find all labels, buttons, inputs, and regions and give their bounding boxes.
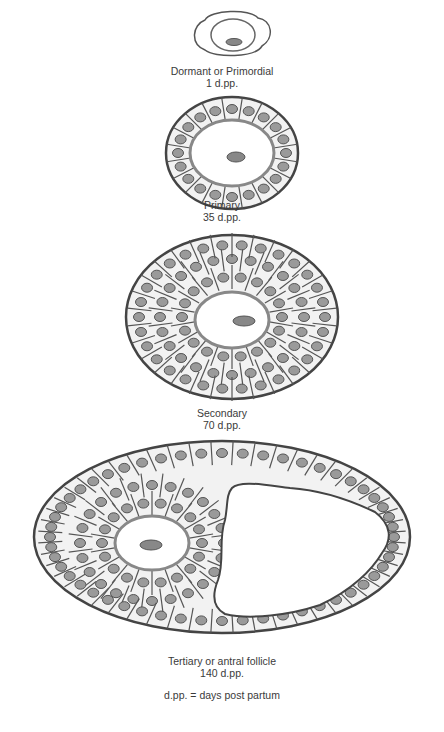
stage-name: Primary	[0, 199, 444, 211]
stage-age: 35 d.pp.	[0, 211, 444, 223]
legend-note: d.pp. = days post partum	[0, 689, 444, 701]
stage-age: 70 d.pp.	[0, 419, 444, 431]
stage-name: Tertiary or antral follicle	[0, 655, 444, 667]
stage-age: 140 d.pp.	[0, 667, 444, 679]
stage-label-secondary: Secondary 70 d.pp.	[0, 407, 444, 431]
stage-name: Dormant or Primordial	[0, 65, 444, 77]
primary-follicle	[166, 97, 298, 209]
stage-name: Secondary	[0, 407, 444, 419]
stage-age: 1 d.pp.	[0, 77, 444, 89]
follicle-diagram	[0, 0, 444, 732]
stage-label-primordial: Dormant or Primordial 1 d.pp.	[0, 65, 444, 89]
secondary-follicle	[126, 233, 338, 401]
stage-label-tertiary: Tertiary or antral follicle 140 d.pp.	[0, 655, 444, 679]
tertiary-follicle	[34, 441, 410, 633]
primordial-follicle	[194, 11, 270, 55]
stage-label-primary: Primary 35 d.pp.	[0, 199, 444, 223]
